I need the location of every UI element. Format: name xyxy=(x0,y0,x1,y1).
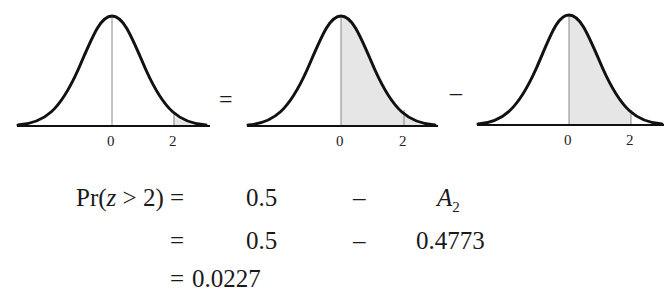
term-a2-value: 0.4773 xyxy=(416,228,485,253)
shaded-right-half xyxy=(341,16,434,126)
minus-sign: – xyxy=(353,185,366,210)
tick-0: 0 xyxy=(107,133,115,149)
tick-2: 2 xyxy=(626,132,634,148)
probability-expression: Pr(z > 2) xyxy=(76,185,164,210)
minus-sign: – xyxy=(353,228,366,253)
equals-operator: = xyxy=(219,87,233,111)
panel-half-area: 0 2 xyxy=(247,15,438,149)
panel-tail-area: 0 2 xyxy=(17,16,210,149)
term-half: 0.5 xyxy=(246,228,277,253)
equals-sign: = xyxy=(170,228,184,253)
tick-2: 2 xyxy=(399,133,407,149)
tick-0: 0 xyxy=(336,133,344,149)
minus-operator: – xyxy=(450,80,462,104)
normal-curves-figure: 0 2 0 2 0 2 xyxy=(0,0,668,160)
panel-a2-area: 0 2 xyxy=(477,14,664,148)
equals-sign: = xyxy=(170,185,184,210)
tick-2: 2 xyxy=(169,133,177,149)
term-a2: A2 xyxy=(437,185,460,215)
term-half: 0.5 xyxy=(246,185,277,210)
shaded-a2-region xyxy=(569,15,631,125)
tick-0: 0 xyxy=(564,132,572,148)
result-value: 0.0227 xyxy=(192,266,261,291)
equals-sign: = xyxy=(170,266,184,291)
